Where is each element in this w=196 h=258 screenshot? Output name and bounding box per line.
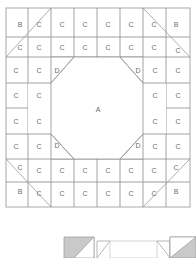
label-piece-b-top-right: B <box>174 21 179 28</box>
label-piece-a: A <box>96 106 101 113</box>
label-piece-c-r2c8: C <box>175 47 180 54</box>
label-piece-c-r3c2: C <box>36 67 41 74</box>
main-block-diagram: A B B B B D D D D C C C C C C C <box>0 0 196 215</box>
label-piece-c-r7c4: C <box>82 167 87 174</box>
connector-triangle-left <box>97 241 110 258</box>
label-piece-c-r7c1: C <box>17 164 22 171</box>
label-piece-c-r2c3: C <box>59 44 64 51</box>
label-piece-c-r8c2: C <box>36 190 41 197</box>
label-piece-c-r8c4: C <box>82 190 87 197</box>
label-piece-c-r6c7: C <box>152 143 157 150</box>
label-piece-c-r8c3: C <box>59 190 64 197</box>
label-piece-c-r4c8: C <box>175 92 180 99</box>
main-block-svg: A B B B B D D D D C C C C C C C <box>0 0 196 215</box>
label-piece-d-bottom-left: D <box>54 142 59 149</box>
label-piece-c-r1c4: C <box>82 21 87 28</box>
label-piece-c-r2c2: C <box>36 44 41 51</box>
label-piece-d-top-right: D <box>135 67 140 74</box>
label-piece-b-top-left: B <box>18 21 23 28</box>
label-piece-c-r6c8: C <box>175 143 180 150</box>
secondary-assembly-svg <box>0 215 196 258</box>
label-piece-c-r1c3: C <box>59 21 64 28</box>
label-piece-c-r1c7: C <box>151 21 156 28</box>
label-piece-c-r3c7: C <box>152 67 157 74</box>
label-piece-c-r1c6: C <box>128 21 133 28</box>
label-piece-b-bottom-right: B <box>174 188 179 195</box>
label-piece-c-r8c7: C <box>151 190 156 197</box>
label-piece-d-top-left: D <box>54 67 59 74</box>
label-piece-c-r6c1: C <box>13 143 18 150</box>
label-piece-c-r2c6: C <box>128 44 133 51</box>
label-piece-c-r8c6: C <box>128 190 133 197</box>
label-piece-c-r7c7: C <box>151 167 156 174</box>
label-piece-c-r8c5: C <box>105 190 110 197</box>
label-piece-c-r1c5: C <box>105 21 110 28</box>
label-piece-c-r1c2: C <box>36 21 41 28</box>
label-piece-b-bottom-left: B <box>18 188 23 195</box>
label-piece-c-r4c7: C <box>152 92 157 99</box>
label-piece-c-r4c2: C <box>36 92 41 99</box>
label-piece-c-r7c5: C <box>105 167 110 174</box>
label-piece-c-r3c1: C <box>13 67 18 74</box>
label-piece-c-r7c8: C <box>173 164 178 171</box>
label-piece-c-r2c1: C <box>17 44 22 51</box>
figure-canvas: A B B B B D D D D C C C C C C C <box>0 0 196 258</box>
label-piece-c-r7c2: C <box>36 167 41 174</box>
label-piece-c-r5c2: C <box>36 118 41 125</box>
label-piece-c-r6c2: C <box>36 143 41 150</box>
label-piece-c-r7c3: C <box>59 167 64 174</box>
label-piece-d-bottom-right: D <box>135 142 140 149</box>
secondary-assembly-diagram <box>0 215 196 258</box>
label-piece-c-r5c7: C <box>152 118 157 125</box>
center-white-strip <box>110 241 157 258</box>
label-piece-c-r2c5: C <box>105 44 110 51</box>
label-piece-c-r4c1: C <box>13 92 18 99</box>
label-piece-c-r5c1: C <box>13 118 18 125</box>
connector-triangle-right <box>157 241 170 258</box>
label-piece-c-r2c7: C <box>151 44 156 51</box>
label-piece-c-r5c8: C <box>175 118 180 125</box>
label-piece-c-r7c6: C <box>128 167 133 174</box>
label-piece-c-r2c4: C <box>82 44 87 51</box>
label-piece-c-r3c8: C <box>175 67 180 74</box>
